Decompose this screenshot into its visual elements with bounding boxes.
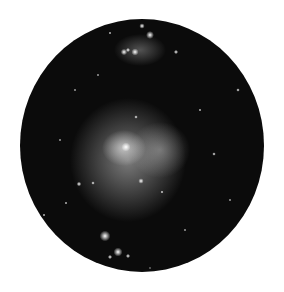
star [199,109,202,112]
star [59,139,62,142]
star [146,31,154,39]
star [108,255,112,259]
star [134,115,138,119]
star [131,48,138,55]
star [126,48,130,52]
star [212,152,216,156]
star [91,181,95,185]
nebula-image [20,19,264,272]
star [114,248,123,257]
star [174,50,178,54]
star [149,267,151,269]
star [236,88,240,92]
star [100,231,111,242]
star [97,74,100,77]
star [77,182,82,187]
star [229,199,232,202]
star [65,202,68,205]
nebula-right-lobe [130,122,190,178]
star [109,32,112,35]
star [122,143,131,152]
star [138,178,143,183]
star [139,23,144,28]
star [74,89,77,92]
star [126,254,130,258]
star [43,214,46,217]
eyepiece-field [20,19,264,272]
star [184,229,187,232]
star [160,190,163,193]
